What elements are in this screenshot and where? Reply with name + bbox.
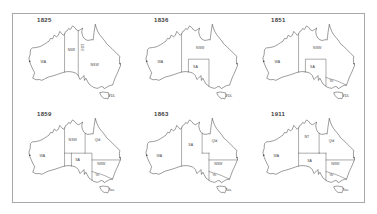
australia-map-svg: WASAQldNSWVicTas. — [145, 117, 244, 198]
region-label-sa: SA — [188, 143, 193, 147]
region-label-nsw: NSW — [196, 46, 205, 50]
region-label-tas: Tas. — [343, 188, 349, 192]
region-label-vic: Vic — [212, 173, 217, 177]
australia-coastline — [146, 25, 238, 89]
region-label-vic: Vic — [329, 173, 334, 177]
region-label-nsw: NSW — [69, 139, 78, 143]
region-label-vic: Vic — [329, 79, 334, 83]
east-coast-dot — [119, 63, 120, 64]
region-label-wa: WA — [274, 60, 280, 64]
region-label-135e: 135°E — [80, 44, 84, 52]
region-label-qld: Qld — [95, 139, 101, 143]
australia-map-svg: WANSWSAVicVDL — [262, 23, 361, 104]
region-label-vdl: VDL — [108, 94, 115, 98]
west-coast-dot — [146, 154, 148, 156]
region-label-vdl: VDL — [225, 94, 232, 98]
region-label-wa: WA — [40, 154, 46, 158]
region-label-nsw: NSW — [97, 162, 106, 166]
figure-australia-boundaries: 1825WANSW135°ENSWVDL1836WANSWSAVDL1851WA… — [0, 0, 377, 214]
australia-map-svg: WANSWQldSANSWVicTas. — [28, 117, 127, 198]
region-label-nsw: NSW — [331, 162, 340, 166]
map-panel-1859: 1859WANSWQldSANSWVicTas. — [13, 108, 130, 202]
map-panel-1836: 1836WANSWSAVDL — [130, 14, 247, 108]
east-coast-dot — [119, 157, 120, 158]
region-label-qld: Qld — [212, 139, 218, 143]
region-label-wa: WA — [40, 60, 46, 64]
west-coast-dot — [29, 154, 31, 156]
region-label-tas: Tas. — [226, 188, 232, 192]
region-label-wa: WA — [157, 60, 163, 64]
australia-coastline — [263, 119, 355, 183]
region-label-sa: SA — [310, 65, 315, 69]
region-label-vdl: VDL — [342, 94, 349, 98]
map-panel-1825: 1825WANSW135°ENSWVDL — [13, 14, 130, 108]
east-coast-dot — [353, 63, 354, 64]
region-label-sa: SA — [75, 158, 80, 162]
region-label-sa: SA — [307, 159, 312, 163]
figure-frame: 1825WANSW135°ENSWVDL1836WANSWSAVDL1851WA… — [12, 13, 365, 203]
map-panel-1911: 1911WANTQldSANSWVicTas. — [247, 108, 364, 202]
australia-coastline — [263, 25, 355, 89]
region-label-nsw: NSW — [68, 48, 75, 52]
map-panel-1851: 1851WANSWSAVicVDL — [247, 14, 364, 108]
west-coast-dot — [146, 60, 148, 62]
west-coast-dot — [29, 60, 31, 62]
australia-map-svg: WANSW135°ENSWVDL — [28, 23, 127, 104]
region-label-sa: SA — [193, 65, 198, 69]
west-coast-dot — [263, 60, 265, 62]
region-label-qld: Qld — [329, 139, 335, 143]
map-panel-1863: 1863WASAQldNSWVicTas. — [130, 108, 247, 202]
region-label-nt: NT — [304, 135, 310, 139]
australia-coastline — [29, 119, 121, 183]
east-coast-dot — [353, 157, 354, 158]
east-coast-dot — [236, 63, 237, 64]
region-label-tas: Tas. — [109, 188, 115, 192]
region-label-nsw: NSW — [313, 46, 322, 50]
east-coast-dot — [236, 157, 237, 158]
region-label-wa: WA — [157, 154, 163, 158]
region-label-vic: Vic — [95, 173, 100, 177]
west-coast-dot — [263, 154, 265, 156]
region-label-wa: WA — [274, 154, 280, 158]
australia-coastline — [146, 119, 238, 183]
region-label-nsw: NSW — [214, 162, 223, 166]
australia-coastline — [29, 25, 121, 89]
region-label-nsw: NSW — [91, 63, 100, 67]
australia-map-svg: WANTQldSANSWVicTas. — [262, 117, 361, 198]
australia-map-svg: WANSWSAVDL — [145, 23, 244, 104]
